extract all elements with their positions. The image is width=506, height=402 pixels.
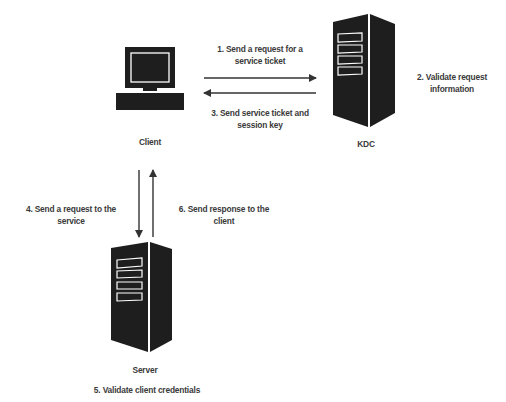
desktop-computer-icon: [116, 47, 184, 110]
client-label: Client: [131, 136, 170, 148]
step-2-line2: information: [406, 83, 498, 95]
step-5-label: 5. Validate client credentials: [81, 384, 213, 396]
step-1-line1: 1. Send a request for a: [207, 43, 313, 55]
step-1-line2: service ticket: [207, 55, 313, 67]
server-label: Server: [123, 364, 167, 376]
step-3-line2: session key: [200, 119, 320, 131]
step-5-line1: 5. Validate client credentials: [81, 384, 213, 396]
step-3-line1: 3. Send service ticket and: [200, 107, 320, 119]
step-2-line1: 2. Validate request: [406, 71, 498, 83]
step-1-label: 1. Send a request for a service ticket: [207, 43, 313, 67]
step-6-line1: 6. Send response to the: [173, 203, 275, 215]
kdc-label: KDC: [348, 138, 383, 150]
step-6-line2: client: [173, 215, 275, 227]
step-4-line2: service: [19, 215, 123, 227]
step-2-label: 2. Validate request information: [406, 71, 498, 95]
server-tower-icon: [111, 242, 172, 353]
step-3-label: 3. Send service ticket and session key: [200, 107, 320, 131]
server-tower-icon: [333, 14, 395, 128]
step-4-line1: 4. Send a request to the: [19, 203, 123, 215]
step-4-label: 4. Send a request to the service: [19, 203, 123, 227]
step-6-label: 6. Send response to the client: [173, 203, 275, 227]
